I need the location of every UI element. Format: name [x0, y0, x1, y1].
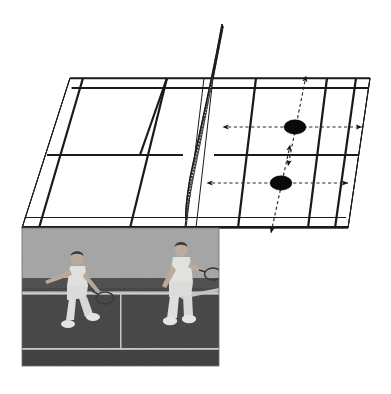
badminton-figure [0, 0, 391, 394]
net-post-top [213, 26, 223, 78]
figure-root: Badminton doubles court diagram with net… [0, 0, 391, 394]
players-at-net-photograph [22, 228, 222, 366]
player-marker-rear [284, 120, 306, 134]
photo-grain-overlay [22, 228, 219, 366]
player-marker-front [270, 176, 292, 190]
